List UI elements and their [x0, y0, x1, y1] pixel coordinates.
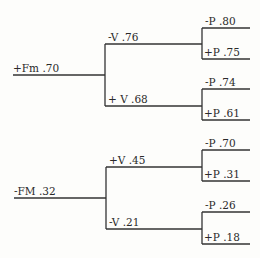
node-label-v: -V .76 [108, 32, 138, 43]
node-label-p: -P .26 [205, 200, 236, 211]
node-label-p: -P .74 [205, 77, 236, 88]
node-label-p: +P .61 [204, 108, 240, 119]
node-label-p: +P .18 [204, 232, 240, 243]
node-label-fm-plus: +Fm .70 [13, 63, 59, 74]
node-label-p: -P .70 [205, 138, 236, 149]
node-label-v: +V .45 [109, 155, 145, 166]
node-label-v: -V .21 [109, 217, 139, 228]
node-label-p: +P .75 [204, 47, 240, 58]
node-label-p: +P .31 [204, 169, 240, 180]
tree-diagram: +Fm .70 -V .76 + V .68 -P .80 +P .75 -P … [0, 0, 260, 258]
node-label-p: -P .80 [205, 16, 236, 27]
node-label-fm-minus: -FM .32 [14, 186, 56, 197]
node-label-v: + V .68 [108, 94, 148, 105]
